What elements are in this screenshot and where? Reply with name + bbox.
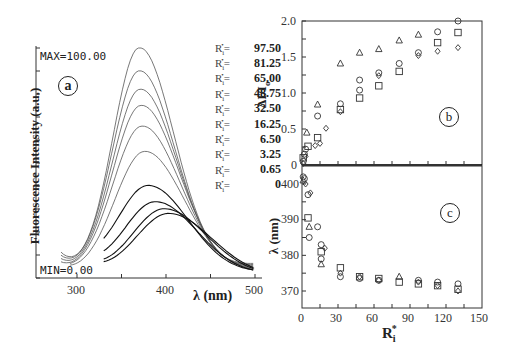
square-marker bbox=[455, 29, 461, 35]
panel-b-ytick: 2.0 bbox=[281, 14, 296, 29]
panel-c-xtick: 0 bbox=[298, 311, 304, 326]
diamond-marker bbox=[435, 283, 440, 289]
triangle-marker bbox=[415, 31, 421, 37]
panel-b-ytick: 0.5 bbox=[281, 122, 296, 137]
diamond-marker bbox=[357, 274, 362, 280]
triangle-marker bbox=[356, 49, 362, 55]
spectrum-curve bbox=[104, 185, 254, 270]
square-marker bbox=[396, 279, 402, 285]
panel-b-ytick: 1.0 bbox=[281, 86, 296, 101]
panel-a-badge: a bbox=[58, 76, 78, 96]
legend-item: Ri•=0.65 bbox=[215, 160, 281, 175]
diamond-marker bbox=[318, 140, 323, 146]
panel-a-xtick: 400 bbox=[156, 283, 174, 298]
circle-marker bbox=[337, 101, 343, 107]
circle-marker bbox=[315, 113, 321, 119]
circle-marker bbox=[357, 77, 363, 83]
triangle-marker bbox=[306, 223, 312, 229]
triangle-marker bbox=[304, 129, 310, 135]
circle-marker bbox=[357, 87, 363, 93]
panel-a-xtick: 300 bbox=[67, 283, 85, 298]
spectrum-curve bbox=[104, 209, 254, 269]
diamond-marker bbox=[435, 48, 440, 54]
panel-a-ylabel: Fluorescence Intensity (a.u.) bbox=[27, 71, 43, 261]
triangle-marker bbox=[314, 101, 320, 107]
panel-b-ytick: 0 bbox=[291, 158, 297, 173]
max-annotation: MAX=100.00 bbox=[40, 50, 106, 63]
panel-b-ylabel: ΔI/Io bbox=[254, 82, 272, 108]
panel-c-xtick: 30 bbox=[330, 311, 342, 326]
square-marker bbox=[356, 95, 362, 101]
diamond-marker bbox=[456, 288, 461, 294]
circle-marker bbox=[315, 224, 321, 230]
square-marker bbox=[314, 134, 320, 140]
panel-c-xtick: 90 bbox=[402, 311, 414, 326]
panel-c-ytick: 390 bbox=[281, 212, 299, 227]
circle-marker bbox=[435, 29, 441, 35]
panel-c-xtick: 120 bbox=[434, 311, 452, 326]
triangle-marker bbox=[396, 37, 402, 43]
legend-item: Ri•=3.25 bbox=[215, 144, 281, 159]
square-marker bbox=[376, 83, 382, 89]
legend-item: Ri•=6.50 bbox=[215, 129, 281, 144]
panel-b-badge: b bbox=[439, 107, 459, 127]
panel-a-xtick: 500 bbox=[245, 283, 263, 298]
panel-c-ytick: 370 bbox=[281, 284, 299, 299]
panel-c-badge: c bbox=[440, 203, 460, 223]
legend-item: Ri•=16.25 bbox=[215, 114, 281, 129]
circle-marker bbox=[306, 235, 312, 241]
panel-c-ytick: 380 bbox=[281, 248, 299, 263]
diamond-marker bbox=[324, 125, 329, 131]
square-marker bbox=[434, 39, 440, 45]
panel-c-xlabel: Ri* bbox=[382, 323, 397, 344]
diamond-marker bbox=[313, 143, 318, 149]
triangle-marker bbox=[376, 46, 382, 52]
square-marker bbox=[396, 68, 402, 74]
panel-c-xtick: 150 bbox=[470, 311, 488, 326]
legend-item: Ri•=0 bbox=[215, 175, 281, 190]
min-annotation: MIN=0.00 bbox=[40, 264, 93, 277]
panel-b-ytick: 1.5 bbox=[281, 50, 296, 65]
diamond-marker bbox=[416, 279, 421, 285]
panel-c-ylabel: λ (nm) bbox=[266, 218, 282, 254]
legend-prefix: Ri•= bbox=[215, 175, 245, 198]
legend-item: Ri•=97.50 bbox=[215, 38, 281, 53]
triangle-marker bbox=[396, 273, 402, 279]
panel-a-xlabel: λ (nm) bbox=[193, 288, 232, 304]
panel-c-scatter bbox=[300, 166, 482, 308]
legend-item: Ri•=81.25 bbox=[215, 53, 281, 68]
diamond-marker bbox=[338, 109, 343, 115]
spectrum-curve bbox=[104, 213, 254, 267]
panel-c-ytick: 400 bbox=[281, 177, 299, 192]
triangle-marker bbox=[337, 60, 343, 66]
diamond-marker bbox=[456, 45, 461, 51]
panel-c-xtick: 60 bbox=[366, 311, 378, 326]
panel-b-scatter bbox=[300, 18, 482, 167]
circle-marker bbox=[396, 60, 402, 66]
legend-value: 0 bbox=[245, 177, 281, 192]
